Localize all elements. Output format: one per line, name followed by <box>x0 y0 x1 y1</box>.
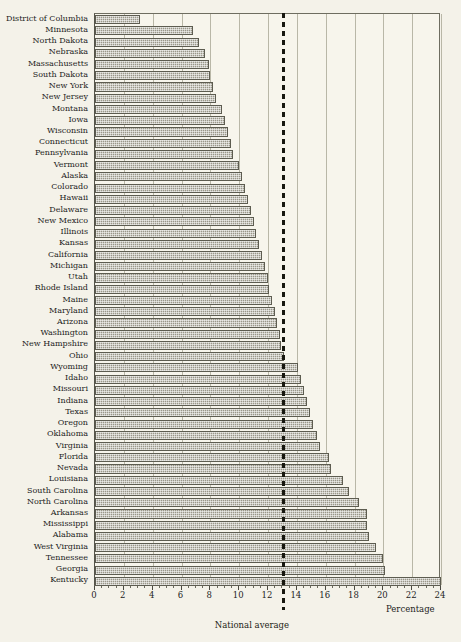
bar <box>95 206 251 215</box>
bar-row <box>95 26 439 35</box>
x-tick-label: 2 <box>120 590 125 600</box>
bar-chart-figure: District of ColumbiaMinnesotaNorth Dakot… <box>0 0 461 642</box>
bar <box>95 420 313 429</box>
bar <box>95 352 284 361</box>
category-label: Nevada <box>57 463 88 472</box>
bar-row <box>95 161 439 170</box>
category-label: North Dakota <box>33 36 88 45</box>
category-label: Utah <box>68 272 88 281</box>
bar-rows <box>95 14 439 585</box>
bar-row <box>95 577 439 586</box>
bar-row <box>95 566 439 575</box>
national-average-line <box>282 13 285 610</box>
bar-row <box>95 442 439 451</box>
bar-row <box>95 116 439 125</box>
axis-tick-minor <box>346 586 347 588</box>
x-tick-label: 12 <box>262 590 273 600</box>
bar-row <box>95 127 439 136</box>
bar <box>95 330 280 339</box>
bar <box>95 566 385 575</box>
bar-row <box>95 273 439 282</box>
bar <box>95 172 242 181</box>
bar <box>95 375 301 384</box>
axis-tick-minor <box>368 586 369 588</box>
bar-row <box>95 453 439 462</box>
category-label: Idaho <box>65 373 88 382</box>
category-label: Oklahoma <box>47 429 88 438</box>
bar-row <box>95 509 439 518</box>
category-label: Rhode Island <box>35 283 88 292</box>
bar <box>95 139 231 148</box>
bar-row <box>95 420 439 429</box>
axis-tick-minor <box>317 586 318 588</box>
category-label: Louisiana <box>49 474 88 483</box>
bar-row <box>95 105 439 114</box>
category-label: Colorado <box>51 182 88 191</box>
axis-tick-minor <box>361 586 362 588</box>
bar <box>95 262 265 271</box>
category-label: Georgia <box>56 564 88 573</box>
category-label: Wisconsin <box>47 126 88 135</box>
category-label: Mississippi <box>43 519 88 528</box>
category-label: New Mexico <box>38 216 88 225</box>
category-label: West Virginia <box>34 542 88 551</box>
clipped-title <box>0 0 461 8</box>
bar <box>95 71 210 80</box>
x-axis-title: Percentage <box>386 604 435 614</box>
axis-tick-minor <box>202 586 203 588</box>
category-label: Massachusetts <box>28 59 88 68</box>
bar <box>95 38 199 47</box>
bar <box>95 229 256 238</box>
bar-row <box>95 464 439 473</box>
bar <box>95 15 140 24</box>
bar <box>95 49 205 58</box>
category-label: South Carolina <box>27 486 88 495</box>
bar-row <box>95 38 439 47</box>
axis-tick-minor <box>108 586 109 588</box>
category-label: Michigan <box>50 261 88 270</box>
axis-tick-minor <box>303 586 304 588</box>
category-label: Maryland <box>49 306 88 315</box>
bar-row <box>95 184 439 193</box>
gridline <box>441 14 442 585</box>
bar-row <box>95 375 439 384</box>
category-label: Missouri <box>53 384 88 393</box>
bar <box>95 464 331 473</box>
x-tick-label: 16 <box>319 590 330 600</box>
bar-row <box>95 71 439 80</box>
bar <box>95 251 262 260</box>
bar <box>95 543 376 552</box>
axis-tick-minor <box>173 586 174 588</box>
category-label: Alaska <box>61 171 88 180</box>
axis-tick-minor <box>144 586 145 588</box>
x-tick-label: 22 <box>406 590 417 600</box>
axis-tick-minor <box>339 586 340 588</box>
axis-tick-minor <box>281 586 282 588</box>
bar-row <box>95 240 439 249</box>
bar <box>95 487 349 496</box>
bar <box>95 521 367 530</box>
bar <box>95 397 307 406</box>
bar-row <box>95 386 439 395</box>
category-axis-labels: District of ColumbiaMinnesotaNorth Dakot… <box>0 13 90 586</box>
category-label: New Jersey <box>42 92 88 101</box>
axis-tick-minor <box>418 586 419 588</box>
bar <box>95 127 228 136</box>
category-label: California <box>48 250 88 259</box>
bar-row <box>95 60 439 69</box>
bar-row <box>95 172 439 181</box>
bar <box>95 408 310 417</box>
axis-tick-minor <box>253 586 254 588</box>
x-tick-label: 8 <box>207 590 212 600</box>
category-label: Vermont <box>54 160 88 169</box>
axis-tick-minor <box>116 586 117 588</box>
bar <box>95 195 248 204</box>
bar-row <box>95 532 439 541</box>
bar <box>95 386 304 395</box>
bar-row <box>95 318 439 327</box>
category-label: New York <box>49 81 88 90</box>
category-label: District of Columbia <box>6 14 88 23</box>
category-label: Kansas <box>59 238 88 247</box>
bar-row <box>95 487 439 496</box>
x-axis-ticks: 024681012141618202224 <box>94 586 440 594</box>
